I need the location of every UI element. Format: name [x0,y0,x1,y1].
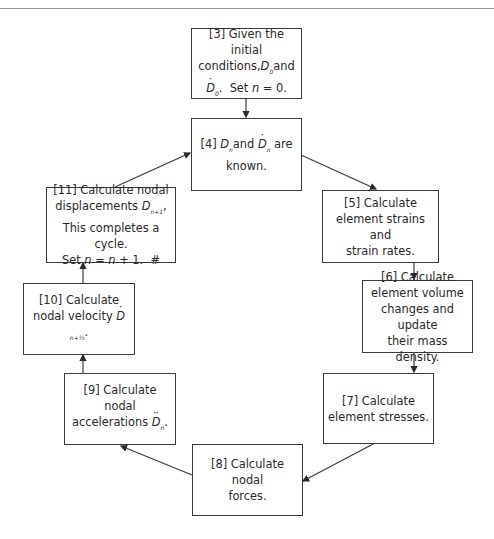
d-dot-symbol: D [258,136,267,152]
step-5-line3: strain rates. [326,243,435,259]
step-3-box: [3] Given the initial conditions,D0and D… [191,28,302,99]
step-11-box: [11] Calculate nodal displacements Dn+1,… [46,187,176,263]
step-8-line2: forces. [196,488,299,504]
step-3-line2: conditions, [198,59,260,73]
d-dot-symbol: D [206,80,215,96]
step-5-line1: [5] Calculate [326,195,435,211]
step-10-line1: [10] Calculate [27,292,131,308]
step-6-box: [6] Calculate element volume changes and… [362,280,473,353]
step-6-line2: element volume [366,285,469,301]
step-7-box: [7] Calculate element stresses. [323,373,434,444]
step-5-line2: element strains and [326,211,435,243]
step-8-box: [8] Calculate nodal forces. [192,444,303,516]
step-6-line3: changes and update [366,301,469,333]
step-6-line1: [6] Calculate [366,269,469,285]
step-7-line1: [7] Calculate [328,393,429,409]
step-5-box: [5] Calculate element strains and strain… [322,190,439,263]
step-6-line4: their mass density. [366,333,469,365]
step-11-line2: displacements [55,199,141,213]
edge-4-5 [301,155,376,189]
edge-8-9 [121,446,192,475]
step-9-box: [9] Calculate nodal accelerations Dn. [64,373,176,445]
step-9-line2: accelerations [72,415,152,429]
step-11-line4: Set [62,253,84,267]
d-dot-symbol: D [116,308,125,324]
step-8-line1: [8] Calculate nodal [196,456,299,488]
step-4-line2: known. [200,158,292,174]
step-10-line2: nodal velocity [33,309,116,323]
step-4-box: [4] Dnand Dn are known. [191,118,302,191]
step-11-line3: This completes a cycle. [50,220,172,252]
step-11-line1: [11] Calculate nodal [50,182,172,198]
step-7-line2: element stresses. [328,409,429,425]
d-double-dot-symbol: D [152,414,161,430]
edge-7-8 [303,443,375,481]
step-10-box: [10] Calculate nodal velocity Dn+½. [23,283,135,355]
step-3-line1: [3] Given the initial [195,26,298,58]
